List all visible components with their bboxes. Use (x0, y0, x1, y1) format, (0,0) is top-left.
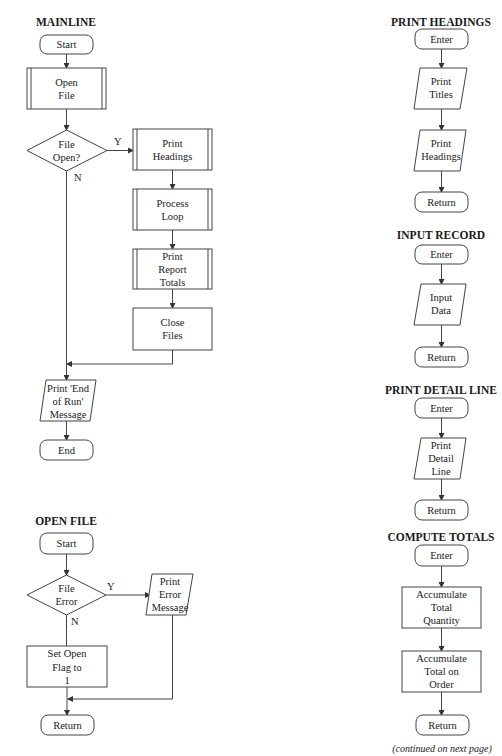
svg-text:Open: Open (55, 77, 78, 88)
svg-text:Error: Error (55, 596, 78, 607)
svg-text:Return: Return (53, 720, 82, 731)
print-detail-return-terminal[interactable]: Return (415, 500, 468, 520)
flowchart-canvas: MAINLINE Start Open File File Open? Y N … (0, 0, 502, 756)
svg-text:Print: Print (162, 251, 183, 262)
svg-text:Return: Return (427, 505, 456, 516)
svg-text:Print: Print (160, 576, 181, 587)
svg-text:Order: Order (429, 679, 454, 690)
svg-text:Return: Return (427, 197, 456, 208)
open-file-process[interactable]: Open File (27, 68, 106, 109)
svg-text:Message: Message (152, 602, 189, 613)
svg-text:Detail: Detail (428, 453, 454, 464)
mainline-title: MAINLINE (36, 16, 96, 28)
svg-text:Enter: Enter (430, 34, 453, 45)
svg-text:File: File (58, 90, 75, 101)
svg-text:Report: Report (158, 264, 187, 275)
svg-text:Accumulate: Accumulate (416, 653, 467, 664)
file-open-decision[interactable]: File Open? (27, 130, 107, 171)
print-detail-line-chart: PRINT DETAIL LINE Enter Print Detail Lin… (385, 384, 497, 520)
set-open-flag-process[interactable]: Set Open Flag to 1 (27, 646, 107, 687)
print-detail-enter-terminal[interactable]: Enter (415, 398, 468, 418)
svg-text:End: End (58, 445, 76, 456)
svg-text:Print: Print (431, 440, 452, 451)
svg-text:Print 'End: Print 'End (47, 383, 90, 394)
svg-text:Headings: Headings (153, 151, 193, 162)
svg-text:Totals: Totals (160, 277, 186, 288)
svg-text:1: 1 (64, 675, 69, 686)
input-data-io[interactable]: Input Data (414, 284, 466, 325)
svg-text:Return: Return (428, 720, 457, 731)
print-headings-enter-terminal[interactable]: Enter (415, 29, 468, 49)
compute-totals-title: COMPUTE TOTALS (387, 531, 494, 543)
svg-text:Total on: Total on (424, 666, 459, 677)
svg-text:of Run': of Run' (53, 396, 84, 407)
compute-totals-return-terminal[interactable]: Return (416, 715, 469, 735)
input-record-enter-terminal[interactable]: Enter (415, 245, 468, 264)
svg-text:Loop: Loop (161, 211, 183, 222)
svg-text:Flag to: Flag to (52, 662, 81, 673)
accumulate-total-on-order-process[interactable]: Accumulate Total on Order (402, 651, 481, 692)
input-record-return-terminal[interactable]: Return (415, 347, 468, 367)
yes-label: Y (114, 136, 122, 147)
print-headings-chart: PRINT HEADINGS Enter Print Titles Print … (391, 16, 491, 212)
close-files-process[interactable]: Close Files (133, 308, 212, 350)
yes-label: Y (107, 581, 115, 592)
svg-text:Error: Error (159, 589, 182, 600)
open-file-title: OPEN FILE (35, 515, 97, 527)
svg-text:Files: Files (162, 330, 182, 341)
process-loop-process[interactable]: Process Loop (133, 189, 212, 230)
svg-text:Quantity: Quantity (423, 615, 460, 626)
mainline-start-terminal[interactable]: Start (40, 35, 93, 54)
svg-text:Accumulate: Accumulate (416, 589, 467, 600)
continued-note: (continued on next page) (392, 743, 492, 755)
print-error-message-io[interactable]: Print Error Message (146, 574, 193, 615)
no-label: N (74, 172, 82, 183)
svg-text:Close: Close (161, 317, 185, 328)
svg-text:Line: Line (431, 466, 451, 477)
svg-text:Message: Message (50, 409, 87, 420)
print-headings-io[interactable]: Print Headings (414, 130, 466, 171)
print-report-totals-process[interactable]: Print Report Totals (133, 249, 212, 289)
svg-text:Print: Print (431, 76, 452, 87)
print-detail-line-io[interactable]: Print Detail Line (414, 438, 466, 479)
print-end-of-run-io[interactable]: Print 'End of Run' Message (40, 380, 96, 421)
open-file-start-terminal[interactable]: Start (40, 533, 93, 554)
open-file-return-terminal[interactable]: Return (41, 715, 94, 735)
accumulate-total-quantity-process[interactable]: Accumulate Total Quantity (402, 587, 481, 628)
svg-text:Data: Data (431, 305, 451, 316)
connector-arrow (67, 350, 173, 364)
mainline-chart: MAINLINE Start Open File File Open? Y N … (27, 16, 212, 460)
print-headings-return-terminal[interactable]: Return (415, 192, 468, 212)
compute-totals-enter-terminal[interactable]: Enter (415, 545, 468, 566)
print-headings-process[interactable]: Print Headings (133, 129, 212, 170)
svg-text:Return: Return (427, 352, 456, 363)
compute-totals-chart: COMPUTE TOTALS Enter Accumulate Total Qu… (387, 531, 494, 735)
input-record-title: INPUT RECORD (397, 229, 485, 241)
svg-text:Total: Total (431, 602, 453, 613)
print-titles-io[interactable]: Print Titles (414, 68, 467, 109)
svg-text:Open?: Open? (53, 152, 81, 163)
svg-text:Enter: Enter (430, 550, 453, 561)
svg-text:Process: Process (156, 198, 188, 209)
svg-text:Enter: Enter (430, 249, 453, 260)
svg-text:Start: Start (57, 538, 77, 549)
svg-text:File: File (58, 139, 75, 150)
no-label: N (71, 616, 79, 627)
svg-text:Titles: Titles (429, 89, 453, 100)
print-detail-line-title: PRINT DETAIL LINE (385, 384, 497, 396)
svg-text:Print: Print (162, 138, 183, 149)
svg-text:Set Open: Set Open (48, 648, 88, 659)
svg-text:Print: Print (431, 138, 452, 149)
svg-text:File: File (58, 583, 75, 594)
mainline-end-terminal[interactable]: End (40, 440, 93, 460)
terminal-label: Start (57, 39, 77, 50)
file-error-decision[interactable]: File Error (27, 575, 106, 615)
input-record-chart: INPUT RECORD Enter Input Data Return (397, 229, 485, 367)
svg-text:Input: Input (430, 292, 452, 303)
svg-text:Enter: Enter (430, 403, 453, 414)
svg-text:Headings: Headings (421, 151, 461, 162)
print-headings-title: PRINT HEADINGS (391, 16, 491, 28)
open-file-chart: OPEN FILE Start File Error Y N Print Err… (27, 515, 193, 735)
